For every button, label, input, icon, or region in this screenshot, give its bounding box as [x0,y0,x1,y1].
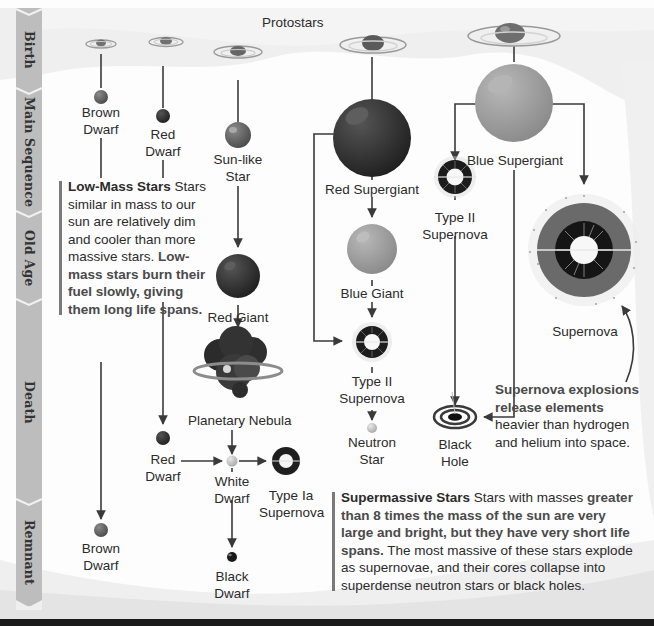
type-ii-supernova-left-label: Type II Supernova [338,373,406,407]
red-dwarf-main-icon [156,109,170,123]
supernova-emphasis: Supernova explosions release elements [495,382,639,415]
low-mass-title: Low-Mass Stars [68,179,171,194]
stellar-life-cycle-diagram: Birth Main Sequence Old Age Death Remnan… [0,0,654,626]
black-dwarf-label: Black Dwarf [210,568,254,602]
note-bar [332,492,335,591]
brown-dwarf-remnant-label: Brown Dwarf [78,540,124,574]
supermassive-title: Supermassive Stars [341,490,470,505]
supernova-text: heavier than hydrogen and helium into sp… [495,417,630,450]
sunlike-star-label: Sun-like Star [210,151,266,185]
type-ii-supernova-right-label: Type II Supernova [421,209,489,243]
black-hole-label: Black Hole [433,436,477,470]
blue-giant-label: Blue Giant [332,285,412,302]
bottom-border [0,619,654,626]
supermassive-text-1: Stars with masses [470,490,587,505]
brown-dwarf-main-icon [94,90,108,104]
supernova-icon [528,194,640,306]
blue-supergiant-label: Blue Supergiant [460,152,570,169]
white-dwarf-label: White Dwarf [210,473,254,507]
type-ia-supernova-label: Type Ia Supernova [259,487,323,521]
stage-label-old-age: Old Age [16,217,42,299]
stage-label-death: Death [16,305,42,499]
stage-label-birth: Birth [16,12,42,88]
brown-dwarf-main-label: Brown Dwarf [78,104,124,138]
supernova-label: Supernova [550,323,620,340]
protostars-label: Protostars [262,14,324,31]
planetary-nebula-label: Planetary Nebula [188,412,288,429]
red-dwarf-death-label: Red Dwarf [143,451,183,485]
neutron-star-label: Neutron Star [343,434,401,468]
type-ia-supernova-icon [271,447,301,475]
type-ii-supernova-icon-left [352,322,392,362]
note-bar [59,181,62,315]
red-supergiant-label: Red Supergiant [322,181,422,198]
stage-label-remnant: Remnant [16,505,42,600]
supernova-note: Supernova explosions release elements he… [495,381,650,451]
stage-label-main-sequence: Main Sequence [16,94,42,211]
low-mass-stars-note: Low-Mass Stars Stars similar in mass to … [68,178,218,318]
supermassive-text-2: The most massive of these stars explode … [341,543,633,593]
red-dwarf-main-label: Red Dwarf [143,126,183,160]
supermassive-stars-note: Supermassive Stars Stars with masses gre… [341,489,641,594]
planetary-nebula-icon [194,326,282,398]
